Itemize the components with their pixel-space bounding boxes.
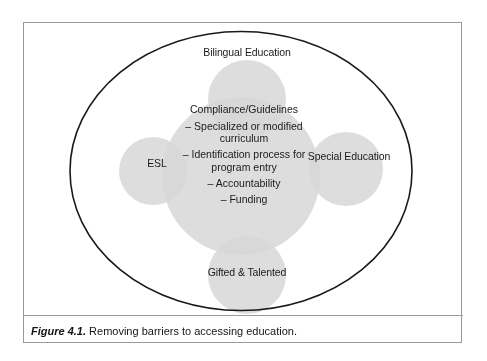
caption-figure-number: Figure 4.1. [31,325,86,337]
figure-caption: Figure 4.1. Removing barriers to accessi… [31,324,456,338]
circle-compliance-guidelines [162,97,320,255]
diagram-canvas: Bilingual Education Special Education Gi… [24,23,463,315]
figure-container: Bilingual Education Special Education Gi… [0,0,487,361]
venn-diagram-svg [24,23,463,315]
circle-group [119,60,383,314]
caption-description: Removing barriers to accessing education… [86,325,297,337]
circle-special-education [309,132,383,206]
caption-divider [24,315,463,316]
figure-frame: Bilingual Education Special Education Gi… [23,22,462,343]
